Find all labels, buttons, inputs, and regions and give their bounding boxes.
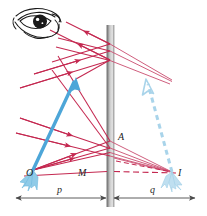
virtual-ray-dashed [116, 161, 172, 172]
eye-icon [13, 9, 61, 39]
optical-axis [24, 172, 176, 177]
label-image-point: I [177, 167, 182, 178]
label-point-m: M [77, 167, 87, 178]
label-point-a: A [117, 131, 125, 142]
optics-ray-diagram: O I A M p q [0, 0, 207, 216]
virtual-ray-extensions [110, 44, 172, 172]
label-object-distance: p [56, 184, 62, 195]
label-object-point: O [26, 167, 33, 178]
diagram-canvas: O I A M p q [0, 0, 207, 216]
reflected-rays [50, 22, 110, 148]
image-arrow-dashed [143, 79, 183, 192]
label-image-distance: q [150, 184, 155, 195]
